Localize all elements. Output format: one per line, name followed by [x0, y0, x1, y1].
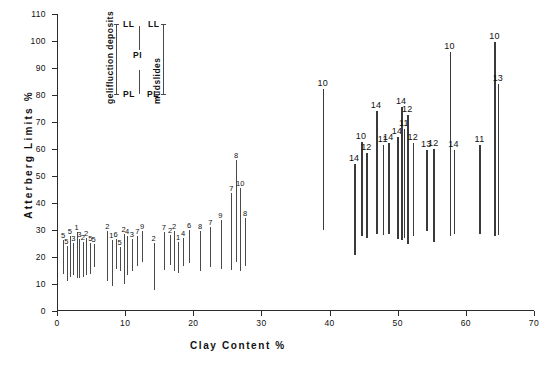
data-bar: [94, 244, 95, 267]
data-bar-label: 9: [140, 222, 144, 231]
data-bar-label: 2: [152, 234, 156, 243]
legend-bar-gelifluction: [116, 24, 117, 94]
y-tick-label: 90: [20, 63, 46, 73]
legend-cap-ll-right: [161, 24, 166, 25]
x-tick: [57, 311, 58, 316]
data-bar-label: 1: [176, 233, 180, 242]
data-bar: [77, 232, 78, 278]
legend-group-mudslides: mudslides: [152, 57, 162, 104]
data-bar-label: 10: [318, 78, 328, 88]
x-tick-label: 50: [385, 318, 411, 328]
x-tick-label: 40: [317, 318, 343, 328]
data-bar-label: 7: [229, 184, 233, 193]
data-bar-label: 10: [236, 179, 245, 188]
y-tick: [52, 203, 57, 204]
x-tick-label: 20: [180, 318, 206, 328]
data-bar: [178, 242, 179, 273]
legend-group-gelifluction: gelifluction deposits: [105, 11, 115, 104]
x-axis-title: Clay Content %: [190, 340, 286, 351]
y-tick-label: 110: [20, 9, 46, 19]
y-tick: [52, 41, 57, 42]
data-bar-label: 2: [172, 222, 176, 231]
data-bar-label: 2: [105, 222, 109, 231]
data-bar: [210, 227, 211, 267]
data-bar: [383, 145, 385, 235]
y-tick: [52, 284, 57, 285]
data-bar: [200, 231, 201, 271]
data-bar: [479, 145, 481, 234]
legend-pi-arrow-lower: [139, 70, 140, 94]
legend: LL PL LL PL PI gelifluction deposits mud…: [113, 14, 185, 94]
y-tick: [52, 14, 57, 15]
data-bar: [376, 111, 378, 234]
data-bar-label: 10: [444, 41, 454, 51]
data-bar-label: 4: [125, 227, 129, 236]
y-axis-title-text: Atterberg Limits: [23, 106, 34, 218]
data-bar: [397, 137, 399, 239]
data-bar: [116, 239, 117, 269]
x-tick: [193, 311, 194, 316]
data-bar-label: 13: [493, 73, 503, 83]
x-tick: [330, 311, 331, 316]
x-tick: [398, 311, 399, 316]
data-bar-label: 3: [130, 230, 134, 239]
data-bar-label: 7: [208, 218, 212, 227]
data-bar: [354, 164, 356, 256]
data-bar-label: 5: [92, 235, 96, 244]
data-bar-label: 5: [118, 238, 122, 247]
data-bar: [433, 149, 435, 242]
data-bar-label: 9: [218, 211, 222, 220]
data-bar: [240, 188, 241, 272]
data-bar: [183, 238, 184, 266]
data-bar-label: 14: [349, 153, 359, 163]
y-tick: [52, 68, 57, 69]
data-bar-label: 12: [428, 138, 438, 148]
data-bar: [73, 243, 74, 275]
y-tick: [52, 257, 57, 258]
data-bar: [154, 243, 155, 290]
data-bar: [454, 150, 456, 234]
data-bar-label: 7: [162, 223, 166, 232]
legend-label-pl-left: PL: [123, 89, 135, 99]
data-bar: [323, 89, 325, 229]
data-bar: [236, 160, 237, 262]
data-bar-label: 8: [234, 151, 238, 160]
data-bar: [388, 143, 390, 233]
data-bar: [174, 231, 175, 271]
data-bar: [124, 234, 125, 284]
data-bar: [127, 236, 128, 275]
data-bar-label: 5: [64, 237, 68, 246]
data-bar: [164, 232, 165, 270]
y-axis-unit: %: [23, 92, 34, 101]
data-bar: [231, 193, 232, 270]
data-bar: [90, 243, 91, 274]
data-bar: [404, 129, 406, 238]
x-tick: [261, 311, 262, 316]
y-tick: [52, 95, 57, 96]
data-bar: [67, 246, 68, 281]
y-tick-label: 20: [20, 252, 46, 262]
data-bar-label: 14: [371, 100, 381, 110]
x-tick: [125, 311, 126, 316]
data-bar: [494, 42, 496, 236]
legend-label-ll-right: LL: [148, 19, 160, 29]
data-bar-label: 10: [489, 31, 499, 41]
data-bar: [245, 218, 246, 267]
x-axis-line: [57, 310, 534, 311]
data-bar: [132, 239, 133, 271]
y-tick: [52, 176, 57, 177]
data-bar: [112, 240, 113, 286]
y-tick: [52, 122, 57, 123]
data-bar: [83, 242, 84, 277]
legend-pi-arrow-upper: [139, 26, 140, 50]
x-tick-label: 0: [44, 318, 70, 328]
legend-label-pi: PI: [133, 50, 142, 60]
data-bar: [79, 239, 80, 278]
x-tick-label: 60: [453, 318, 479, 328]
data-bar-label: 12: [407, 132, 417, 142]
data-bar-label: 4: [181, 229, 185, 238]
x-tick: [534, 311, 535, 316]
y-tick: [52, 230, 57, 231]
data-bar-label: 6: [187, 221, 191, 230]
data-bar: [120, 247, 121, 271]
